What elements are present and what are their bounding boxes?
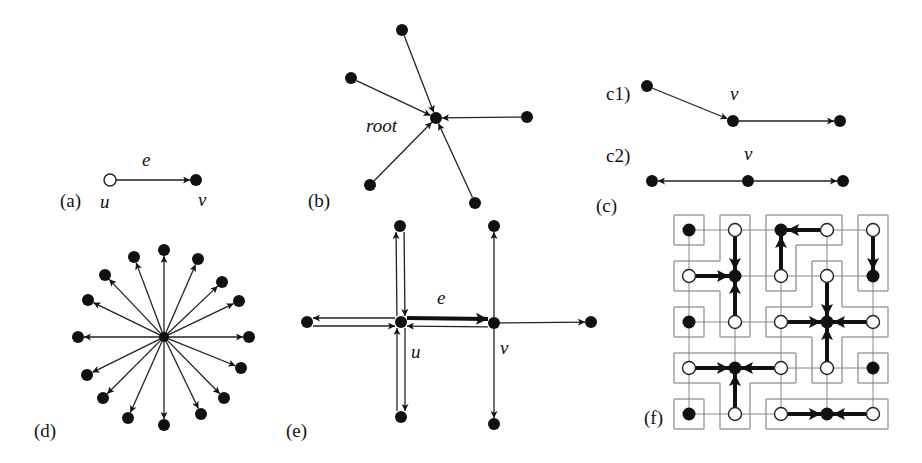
edge-out [107,339,162,394]
panel-label-a: (a) [60,190,81,212]
filled-node [195,408,207,420]
filled-node [683,224,696,237]
open-node [104,174,116,186]
filled-node [97,392,109,404]
root-label: root [366,115,398,136]
edge-to-root [356,81,430,116]
node-label-u: u [100,191,110,212]
edge-to-root [439,123,473,197]
open-node [729,224,742,237]
filled-node [396,24,408,36]
panel-b: root(b) [308,24,533,212]
filled-node [345,72,357,84]
filled-node [683,408,696,421]
panel-label-c2: c2) [606,145,630,167]
filled-node [488,220,500,232]
filled-node [99,269,111,281]
panel-label-f: (f) [644,407,663,429]
edge-label-e: e [142,149,150,170]
filled-node [834,115,846,127]
node-label-v-c1: v [730,83,739,104]
filled-node [395,316,407,328]
filled-node [585,316,597,328]
panel-label-e: (e) [286,420,307,442]
node-label-v: v [500,337,509,358]
filled-node [488,418,500,430]
edge-to-root [404,36,434,113]
node-label-v-c2: v [744,143,753,164]
panel-f: (f) [644,215,888,429]
filled-node [394,220,406,232]
filled-node [867,270,880,283]
open-node [729,316,742,329]
filled-node [128,251,140,263]
edge-to-root [442,117,521,118]
edge-out [165,340,198,409]
edge-label-e: e [437,287,445,308]
filled-node [158,419,170,431]
filled-node [216,276,228,288]
directed-edge [396,232,397,316]
open-node [821,362,834,375]
open-node [867,316,880,329]
filled-node [301,316,313,328]
filled-node [683,316,696,329]
edge-c1 [653,88,728,118]
filled-node [867,362,880,375]
directed-edge [500,322,585,323]
open-node [821,270,834,283]
open-node [775,316,788,329]
filled-node [243,331,255,343]
filled-node [646,175,658,187]
filled-node [82,294,94,306]
filled-node [122,412,134,424]
node-label-u: u [411,341,421,362]
open-node [683,270,696,283]
panel-a: euv(a) [60,149,207,212]
node-label-v: v [198,189,207,210]
filled-node [837,175,849,187]
edge-out [109,279,162,334]
filled-node [81,369,93,381]
edge-e-thick [407,318,488,319]
panel-e: euv(e) [286,220,597,442]
filled-node [729,362,742,375]
open-node [821,224,834,237]
filled-node [192,253,204,265]
panel-d: (d) [34,244,255,442]
filled-node [821,408,834,421]
filled-node [235,362,247,374]
filled-node [395,411,407,423]
open-node [729,408,742,421]
filled-node [742,175,754,187]
open-node [867,408,880,421]
filled-node [72,331,84,343]
filled-node [729,270,742,283]
edge-out [167,338,236,366]
filled-node [727,115,739,127]
directed-edge [407,326,488,327]
open-node [775,362,788,375]
filled-node [469,197,481,209]
filled-node [821,316,834,329]
edge-out [136,263,163,335]
filled-node [641,80,653,92]
filled-node [190,174,202,186]
panel-label-d: (d) [34,420,56,442]
panel-c: vc1)vc2)(c) [596,80,849,217]
open-node [775,408,788,421]
filled-node [364,179,376,191]
directed-edge [404,232,405,316]
open-node [683,362,696,375]
filled-node [775,224,788,237]
panel-label-c: (c) [596,195,617,217]
panel-label-b: (b) [308,190,330,212]
filled-node [218,392,230,404]
open-node [775,270,788,283]
graph-figure: euv(a) root(b) vc1)vc2)(c) (d) euv(e) (f… [0,0,922,463]
filled-node [159,332,169,342]
edge-out [166,339,220,394]
filled-node [158,244,170,256]
open-node [867,224,880,237]
edge-out [166,286,217,335]
